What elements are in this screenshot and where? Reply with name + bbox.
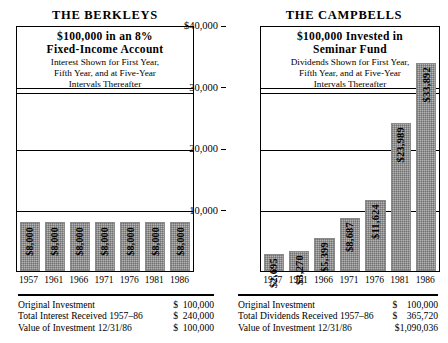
bar-1971: $8,000 [95,222,115,271]
y-tick-label-30000: 30,000 [189,83,218,93]
y-tick-label-10000: 10,000 [189,206,218,216]
left-gridline-20000 [17,150,193,151]
summary-row-label: Original Investment [18,299,173,310]
bar-value-label: $33,892 [421,67,432,103]
bar-1957: $2,695 [264,254,284,271]
shared-y-axis: 10,00020,00030,000$40,000 [196,26,240,272]
x-tick-1966: 1966 [311,275,336,285]
x-tick-1971: 1971 [336,275,361,285]
summary-row-label: Value of Investment 12/31/86 [238,322,395,333]
summary-row: Value of Investment 12/31/86$1,090,036 [238,322,438,333]
x-tick-1981: 1981 [142,275,167,285]
right-summary-rule [238,294,438,296]
y-tick-mark-30000 [221,87,226,88]
bar-1961: $8,000 [45,222,65,271]
x-tick-1976: 1976 [117,275,142,285]
summary-row-value: $ 365,720 [392,310,438,321]
summary-row: Value of Investment 12/31/86$ 100,000 [18,322,214,333]
bar-1966: $5,399 [314,238,334,271]
summary-row: Original Investment$ 100,000 [18,299,214,310]
bar-1986: $8,000 [170,222,190,271]
x-tick-1971: 1971 [91,275,116,285]
summary-row: Original Investment$ 100,000 [238,299,438,310]
summary-row-label: Value of Investment 12/31/86 [18,322,173,333]
summary-row-value: $ 240,000 [173,310,214,321]
bar-value-label: $2,695 [268,258,279,288]
bar-1981: $8,000 [145,222,165,271]
bar-value-label: $8,000 [150,227,161,256]
right-summary-table: Original Investment$ 100,000Total Divide… [238,294,438,333]
left-summary-rule [18,294,214,296]
summary-row-value: $ 100,000 [173,322,214,333]
summary-row-value: $1,090,036 [395,322,438,333]
bar-value-label: $8,000 [175,227,186,256]
right-chart-plot-area: $2,695$3,270$5,399$8,687$11,624$23,989$3… [260,26,440,272]
berkleys-panel: THE BERKLEYS $8,000$8,000$8,000$8,000$8,… [0,0,224,343]
x-tick-1976: 1976 [362,275,387,285]
x-tick-1966: 1966 [66,275,91,285]
campbells-panel: THE CAMPBELLS $2,695$3,270$5,399$8,687$1… [224,0,448,343]
bar-value-label: $23,989 [395,127,406,163]
right-gridline-20000 [261,150,439,151]
left-chart-plot-area: $8,000$8,000$8,000$8,000$8,000$8,000$8,0… [16,26,194,272]
bar-value-label: $8,000 [24,227,35,256]
y-tick-mark-20000 [221,149,226,150]
bar-1957: $8,000 [20,222,40,271]
y-tick-mark-10000 [221,210,226,211]
left-x-axis-labels: 1957196119661971197619811986 [16,275,192,285]
summary-row-label: Original Investment [238,299,392,310]
left-gridline-10000 [17,211,193,212]
bar-1971: $8,687 [340,218,360,271]
x-tick-1986: 1986 [413,275,438,285]
bar-value-label: $8,000 [74,227,85,256]
x-tick-1986: 1986 [167,275,192,285]
bar-value-label: $8,687 [344,222,355,252]
x-tick-1957: 1957 [16,275,41,285]
bar-value-label: $11,624 [370,204,381,239]
left-gridline-30000 [17,88,193,89]
right-gridline-10000 [261,211,439,212]
bar-1976: $11,624 [365,200,385,271]
y-tick-label-20000: 20,000 [189,144,218,154]
bar-value-label: $8,000 [99,227,110,256]
summary-row-value: $ 100,000 [392,299,438,310]
right-x-axis-labels: 1957196119661971197619811986 [260,275,438,285]
summary-row-label: Total Dividends Received 1957–86 [238,310,392,321]
x-tick-1961: 1961 [41,275,66,285]
bar-1966: $8,000 [70,222,90,271]
summary-row: Total Interest Received 1957–86$ 240,000 [18,310,214,321]
bar-1986: $33,892 [416,63,436,271]
bar-value-label: $8,000 [49,227,60,256]
x-tick-1981: 1981 [387,275,412,285]
summary-row-label: Total Interest Received 1957–86 [18,310,173,321]
right-panel-title: THE CAMPBELLS [224,8,448,23]
right-gridline-30000 [261,88,439,89]
bar-1976: $8,000 [120,222,140,271]
summary-row-value: $ 100,000 [173,299,214,310]
summary-row: Total Dividends Received 1957–86$ 365,72… [238,310,438,321]
y-tick-label-40000: $40,000 [184,21,218,31]
bar-value-label: $5,399 [319,242,330,272]
left-summary-table: Original Investment$ 100,000Total Intere… [18,294,214,333]
bar-value-label: $3,270 [294,255,305,285]
y-tick-mark-40000 [221,26,226,27]
bar-value-label: $8,000 [125,227,136,256]
bar-1981: $23,989 [391,123,411,271]
bar-1961: $3,270 [289,251,309,271]
